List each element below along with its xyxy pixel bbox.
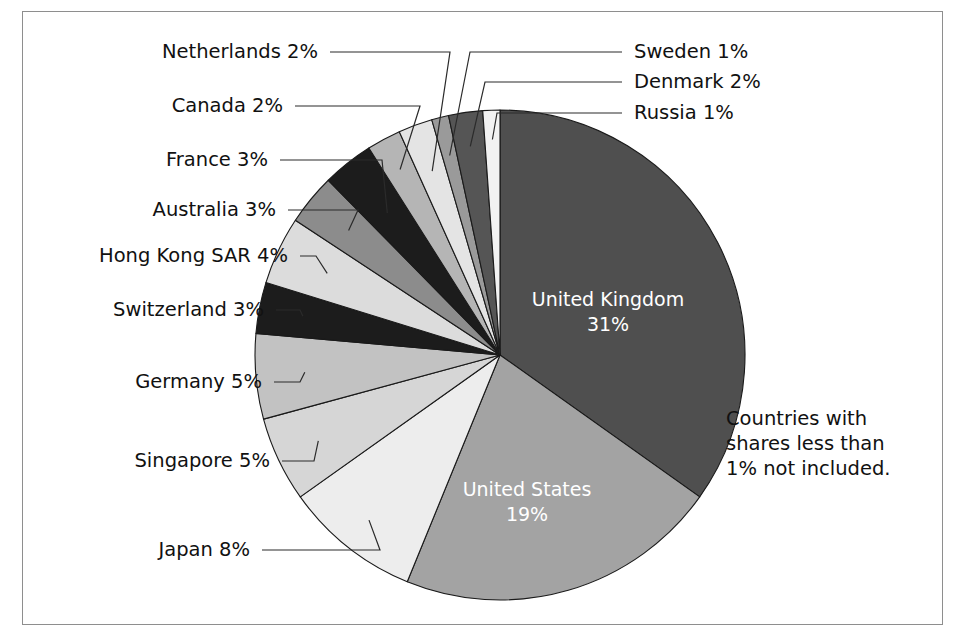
callout-label-australia: Australia 3%	[153, 198, 276, 221]
chart-note-line-1: Countries with	[726, 407, 867, 430]
callout-label-switzerland: Switzerland 3%	[113, 298, 264, 321]
pie-slices-group: United Kingdom 31%United States 19%Japan…	[255, 110, 745, 600]
callout-label-denmark: Denmark 2%	[634, 70, 761, 93]
callout-label-germany: Germany 5%	[135, 370, 262, 393]
chart-note-line-2: shares less than	[726, 432, 885, 455]
callout-label-sweden: Sweden 1%	[634, 40, 748, 63]
chart-note: Countries withshares less than1% not inc…	[726, 407, 891, 480]
callout-label-netherlands: Netherlands 2%	[162, 40, 318, 63]
pie-chart: United Kingdom 31%United States 19%Japan…	[0, 0, 956, 639]
callout-label-japan: Japan 8%	[156, 538, 250, 561]
figure-root: United Kingdom 31%United States 19%Japan…	[0, 0, 956, 639]
callout-label-canada: Canada 2%	[172, 94, 283, 117]
callout-label-russia: Russia 1%	[634, 101, 734, 124]
callout-label-hong-kong-sar: Hong Kong SAR 4%	[99, 244, 288, 267]
callout-label-france: France 3%	[166, 148, 268, 171]
callout-label-singapore: Singapore 5%	[134, 449, 270, 472]
chart-note-line-3: 1% not included.	[726, 457, 891, 480]
